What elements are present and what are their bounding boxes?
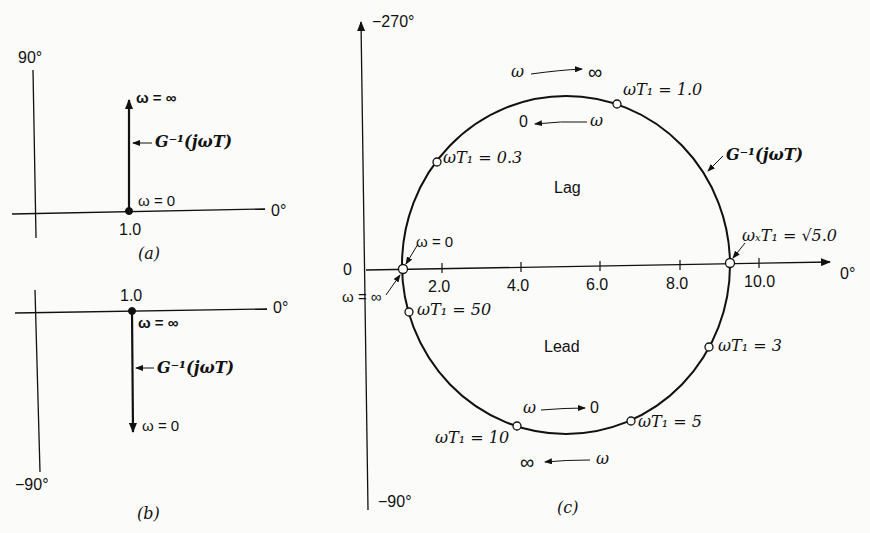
tick-label-8: 8.0	[666, 276, 688, 292]
panel-a-caption: (a)	[138, 246, 160, 262]
dir-bottom-inner-to: 0	[590, 400, 599, 416]
tick-label-10: 10.0	[744, 274, 775, 290]
panel-b-axis-bottom-label: −90°	[15, 477, 49, 493]
panel-a-real-axis	[12, 209, 265, 214]
pointer-curve-label	[708, 156, 723, 171]
dir-bottom-outer-to: ∞	[520, 452, 534, 472]
region-lead-label: Lead	[544, 339, 580, 355]
left-point-lower-label: ω = ∞	[342, 289, 382, 304]
panel-c-axis-bottom-label: −90°	[378, 494, 412, 510]
panel-b-locus-arrow	[132, 311, 133, 432]
point-label-wt1-1: ωT₁ = 1.0	[623, 82, 702, 98]
pointer-crossover	[733, 243, 745, 258]
point-label-wt1-5: ωT₁ = 5	[638, 414, 702, 430]
panel-b-point	[129, 308, 136, 315]
point-left-crossing	[399, 265, 408, 274]
dir-top-inner-from: ω	[590, 113, 603, 129]
panel-c-real-axis	[366, 262, 830, 270]
panel-a-end-label: ω = ∞	[136, 90, 176, 105]
panel-b-end-label: ω = 0	[142, 418, 179, 433]
crossover-label: ωₓT₁ = √5.0	[742, 228, 837, 244]
direction-arrow-top-inner	[535, 122, 587, 124]
panel-c-caption: (c)	[557, 500, 578, 516]
direction-arrow-top-outer	[531, 69, 582, 74]
left-point-upper-label: ω = 0	[416, 234, 453, 249]
point-wt1-5	[627, 417, 635, 425]
point-label-wt1-0-3: ωT₁ = 0.3	[443, 150, 522, 166]
point-wt1-50	[405, 308, 413, 316]
panel-a-axis-right-label: 0°	[271, 203, 286, 219]
direction-arrow-bottom-outer	[545, 460, 590, 462]
dir-top-outer-from: ω	[511, 64, 524, 80]
point-wt1-10	[513, 422, 521, 430]
direction-arrow-bottom-inner	[541, 408, 585, 410]
dir-top-inner-to: 0	[519, 114, 528, 130]
panel-a-point	[126, 208, 133, 215]
region-lag-label: Lag	[554, 180, 581, 196]
panel-b-axis-right-label: 0°	[273, 300, 288, 316]
panel-c-ticks	[442, 258, 759, 273]
point-wt1-1	[613, 100, 621, 108]
diagram-canvas	[0, 0, 870, 533]
panel-b-real-axis	[15, 309, 267, 313]
panel-a-start-label: ω = 0	[138, 193, 175, 208]
panel-b-caption: (b)	[137, 506, 160, 522]
panel-b-point-label: 1.0	[120, 288, 142, 304]
dir-bottom-inner-from: ω	[523, 400, 536, 416]
panel-c	[361, 22, 830, 510]
panel-c-curve-label: G⁻¹(jωT)	[726, 147, 803, 163]
panel-b-vertical-axis	[35, 290, 40, 472]
point-label-wt1-3: ωT₁ = 3	[718, 338, 782, 354]
panel-b-start-label: ω = ∞	[138, 315, 178, 330]
panel-c-vertical-axis	[361, 22, 368, 510]
dir-top-outer-to: ∞	[588, 62, 602, 82]
tick-label-4: 4.0	[507, 278, 529, 294]
panel-a-vertical-axis	[33, 70, 36, 238]
dir-bottom-outer-from: ω	[596, 451, 609, 467]
tick-label-2: 2.0	[428, 279, 450, 295]
point-crossover	[726, 259, 735, 268]
tick-label-6: 6.0	[586, 277, 608, 293]
panel-c-origin-label: 0	[343, 262, 352, 278]
point-label-wt1-50: ωT₁ = 50	[417, 302, 491, 318]
panel-a-axis-top-label: 90°	[18, 50, 42, 66]
panel-a-curve-label: G⁻¹(jωT)	[155, 134, 232, 150]
point-label-wt1-10: ωT₁ = 10	[435, 430, 509, 446]
point-wt1-3	[705, 343, 713, 351]
panel-c-axis-right-label: 0°	[840, 266, 855, 282]
panel-c-axis-top-label: −270°	[372, 14, 414, 30]
panel-b-curve-label: G⁻¹(jωT)	[157, 360, 234, 376]
pointer-omega-inf	[386, 275, 400, 295]
panel-a-point-label: 1.0	[119, 222, 141, 238]
point-wt1-0-3	[433, 158, 441, 166]
